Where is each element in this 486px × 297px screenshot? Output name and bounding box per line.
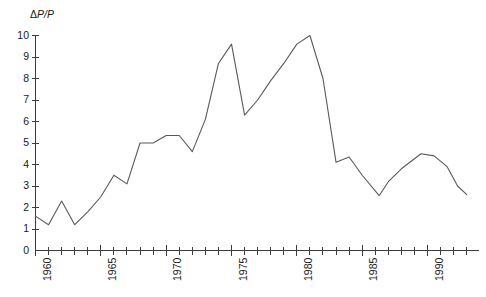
y-tick-label: 7 (6, 93, 29, 105)
x-tick-label: 1985 (367, 257, 379, 280)
y-tick-label: 1 (6, 222, 29, 234)
x-tick-label: 1965 (106, 257, 118, 280)
x-tick-label: 1980 (302, 257, 314, 280)
data-series-line (36, 36, 467, 225)
inflation-rate-line-chart: ΔP/P 012345678910 1960196519701975198019… (0, 0, 486, 297)
y-tick-label: 6 (6, 115, 29, 127)
x-tick-label: 1990 (433, 257, 445, 280)
y-tick-label: 5 (6, 136, 29, 148)
x-tick-label: 1970 (171, 257, 183, 280)
y-tick-label: 0 (6, 244, 29, 256)
y-tick-label: 10 (6, 29, 29, 41)
y-tick-label: 2 (6, 201, 29, 213)
axes (36, 35, 479, 251)
y-tick-label: 9 (6, 50, 29, 62)
x-tick-label: 1975 (237, 257, 249, 280)
tick-marks (32, 36, 467, 257)
plot-area (0, 0, 486, 297)
y-tick-label: 4 (6, 158, 29, 170)
y-tick-label: 8 (6, 72, 29, 84)
y-tick-label: 3 (6, 179, 29, 191)
x-tick-label: 1960 (41, 257, 53, 280)
